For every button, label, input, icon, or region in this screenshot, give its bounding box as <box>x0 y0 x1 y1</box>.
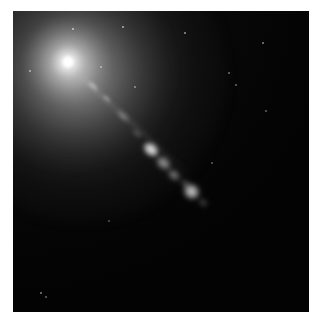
star-10 <box>265 110 267 112</box>
astronomical-image-frame <box>13 11 309 312</box>
star-8 <box>228 72 230 74</box>
star-14 <box>108 220 109 221</box>
star-11 <box>40 292 42 294</box>
star-9 <box>235 84 237 86</box>
star-2 <box>122 26 124 28</box>
star-6 <box>100 66 102 68</box>
star-4 <box>262 42 264 44</box>
star-1 <box>72 28 74 30</box>
galaxy-nucleus-core <box>62 56 74 68</box>
screenshot-root <box>0 0 323 327</box>
star-7 <box>134 86 136 88</box>
star-3 <box>184 32 186 34</box>
star-12 <box>45 296 47 298</box>
star-13 <box>211 162 212 163</box>
star-5 <box>29 70 31 72</box>
